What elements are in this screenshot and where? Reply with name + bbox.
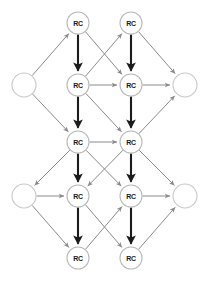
edge-r3c2-to-r4c1 — [88, 150, 123, 186]
edge-left-top-to-r3c1 — [33, 94, 69, 132]
graph-diagram: RCRCRCRCRCRCRCRCRCRC — [0, 0, 205, 281]
node-label-r3c1: RC — [73, 139, 83, 146]
node-label-r5c2: RC — [126, 255, 136, 262]
graph-canvas: RCRCRCRCRCRCRCRCRCRC — [0, 0, 205, 281]
node-label-r2c2: RC — [126, 82, 136, 89]
node-left-bottom[interactable] — [12, 184, 36, 208]
node-label-r4c1: RC — [73, 193, 83, 200]
node-label-r1c2: RC — [126, 20, 136, 27]
edge-r3c2-to-right-top — [139, 96, 175, 134]
node-r5c2[interactable]: RC — [120, 247, 142, 269]
node-r3c1[interactable]: RC — [67, 131, 89, 153]
edge-r2c1-to-r1c2 — [85, 34, 121, 77]
node-left-top[interactable] — [12, 73, 36, 97]
node-right-bottom[interactable] — [173, 184, 197, 208]
node-r2c1[interactable]: RC — [67, 74, 89, 96]
node-label-r1c1: RC — [73, 20, 83, 27]
edge-r1c2-to-right-top — [139, 32, 176, 74]
edge-left-bottom-to-r5c1 — [32, 205, 69, 247]
node-r5c1[interactable]: RC — [67, 247, 89, 269]
node-layer: RCRCRCRCRCRCRCRCRCRC — [12, 12, 197, 269]
node-label-r3c2: RC — [126, 139, 136, 146]
node-right-top[interactable] — [173, 73, 197, 97]
edge-r3c2-to-right-bottom — [139, 150, 174, 185]
edge-left-top-to-r1c1 — [32, 34, 69, 76]
edge-r3c1-to-r4c2 — [86, 150, 121, 186]
edge-r5c1-to-r4c2 — [85, 207, 121, 250]
node-r1c1[interactable]: RC — [67, 12, 89, 34]
node-r3c2[interactable]: RC — [120, 131, 142, 153]
node-label-r4c2: RC — [126, 193, 136, 200]
node-label-r2c1: RC — [73, 82, 83, 89]
node-r2c2[interactable]: RC — [120, 74, 142, 96]
node-circle-right-bottom — [173, 184, 197, 208]
node-label-r5c1: RC — [73, 255, 83, 262]
node-r1c2[interactable]: RC — [120, 12, 142, 34]
node-r4c2[interactable]: RC — [120, 185, 142, 207]
node-circle-right-top — [173, 73, 197, 97]
edge-r5c2-to-right-bottom — [139, 207, 176, 249]
edge-r1c1-to-r2c2 — [85, 32, 121, 75]
edge-r3c1-to-left-bottom — [35, 150, 70, 185]
edge-r2c1-to-r3c2 — [86, 93, 122, 131]
node-r4c1[interactable]: RC — [67, 185, 89, 207]
node-circle-left-top — [12, 73, 36, 97]
edge-layer — [32, 32, 175, 250]
node-circle-left-bottom — [12, 184, 36, 208]
edge-r4c1-to-r5c2 — [85, 205, 121, 248]
